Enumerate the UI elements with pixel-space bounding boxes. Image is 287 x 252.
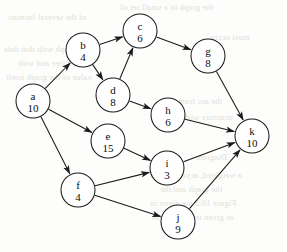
- node-weight-i: 3: [164, 169, 170, 181]
- diagram-canvas: the graph in a small set ofof the severa…: [0, 0, 287, 252]
- node-label-h: h: [165, 104, 171, 116]
- edge-e-to-i: [124, 148, 150, 160]
- node-a[interactable]: a10: [16, 84, 50, 118]
- node-d[interactable]: d8: [96, 78, 130, 112]
- edge-a-to-f: [41, 117, 70, 174]
- node-weight-j: 9: [175, 223, 181, 235]
- node-label-f: f: [76, 179, 80, 191]
- node-f[interactable]: f4: [61, 173, 95, 207]
- node-label-b: b: [80, 39, 86, 51]
- node-label-a: a: [31, 90, 36, 102]
- edge-f-to-i: [95, 172, 149, 185]
- edge-j-to-k: [189, 150, 240, 209]
- edge-d-to-c: [120, 48, 133, 79]
- nodes-group: a10b4c6d8e15f4g8h6i3j9k10: [16, 14, 269, 239]
- node-weight-c: 6: [137, 32, 143, 44]
- node-label-k: k: [249, 125, 255, 137]
- node-i[interactable]: i3: [150, 151, 184, 185]
- node-weight-e: 15: [103, 142, 115, 154]
- node-j[interactable]: j9: [161, 205, 195, 239]
- node-b[interactable]: b4: [66, 33, 100, 67]
- node-g[interactable]: g8: [191, 39, 225, 73]
- node-weight-g: 8: [205, 57, 211, 69]
- node-c[interactable]: c6: [123, 14, 157, 48]
- node-weight-h: 6: [165, 116, 171, 128]
- node-label-g: g: [205, 45, 211, 57]
- node-label-i: i: [165, 157, 168, 169]
- edge-i-to-k: [183, 142, 235, 161]
- node-weight-f: 4: [75, 191, 81, 203]
- edge-c-to-g: [157, 37, 191, 50]
- node-weight-d: 8: [110, 96, 116, 108]
- node-e[interactable]: e15: [91, 124, 125, 158]
- edge-b-to-c: [100, 37, 123, 45]
- node-weight-a: 10: [28, 102, 40, 114]
- edge-d-to-h: [130, 101, 151, 109]
- node-label-j: j: [175, 211, 179, 223]
- edge-f-to-j: [95, 195, 161, 216]
- edge-g-to-k: [216, 71, 243, 120]
- node-weight-k: 10: [247, 137, 259, 149]
- node-label-d: d: [110, 84, 116, 96]
- graph-svg: a10b4c6d8e15f4g8h6i3j9k10: [0, 0, 287, 252]
- edge-a-to-e: [49, 109, 92, 132]
- edge-a-to-b: [45, 63, 70, 88]
- edge-b-to-d: [93, 65, 103, 80]
- node-label-c: c: [138, 20, 143, 32]
- node-weight-b: 4: [80, 51, 86, 63]
- edge-h-to-k: [185, 119, 234, 131]
- node-h[interactable]: h6: [151, 98, 185, 132]
- node-k[interactable]: k10: [235, 119, 269, 153]
- node-label-e: e: [106, 130, 111, 142]
